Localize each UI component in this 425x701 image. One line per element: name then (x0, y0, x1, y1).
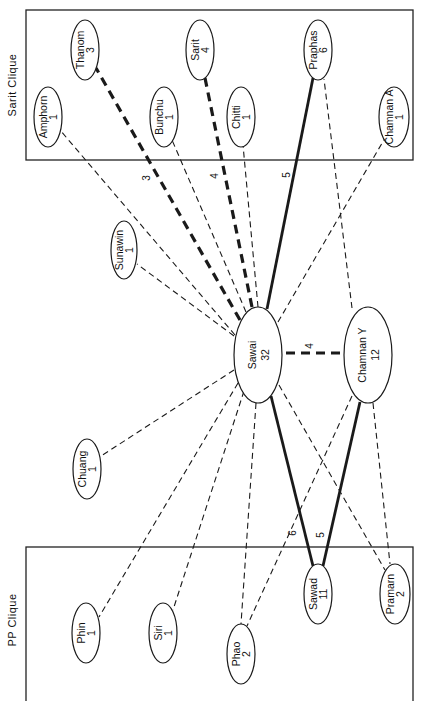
node-chamnan_a: Chamnan A1 (379, 87, 409, 147)
node-value: 2 (394, 591, 406, 597)
node-value: 1 (240, 114, 252, 120)
node-ellipse (234, 307, 282, 403)
node-name: Chamnan Y (356, 327, 368, 382)
clique-label-sarit: Sarit Clique (6, 54, 18, 117)
node-value: 2 (240, 651, 252, 657)
edges (60, 68, 390, 626)
edge-weight-label: 4 (304, 343, 315, 349)
node-sunawin: Sunawin1 (111, 221, 137, 279)
node-value: 1 (85, 630, 97, 636)
edge-sawai-pramarn (279, 385, 385, 570)
node-value: 1 (162, 630, 174, 636)
edge-sawai-sunawin (137, 264, 234, 336)
node-chuang: Chuang1 (73, 439, 101, 499)
node-value: 11 (317, 588, 329, 599)
edge-sawai-chuang (101, 370, 234, 456)
node-value: 1 (163, 114, 175, 120)
edge-sawai-phao (241, 403, 256, 624)
network-diagram: Sarit CliquePP Clique 345645 Amphorn1Tha… (0, 0, 425, 701)
node-sawai: Sawai32 (234, 307, 282, 403)
node-value: 32 (259, 349, 271, 361)
node-sarit: Sarit4 (186, 20, 214, 80)
node-siri: Siri1 (149, 603, 177, 663)
node-amphorn: Amphorn1 (34, 87, 62, 147)
edge-chamnan_y-praphas (324, 79, 352, 308)
edge-chamnan_y-sawad (323, 402, 360, 566)
node-value: 1 (86, 466, 98, 472)
node-value: 1 (123, 247, 135, 253)
node-value: 4 (199, 47, 211, 53)
node-chamnan_y: Chamnan Y12 (344, 307, 392, 403)
edge-sawai-chamnan_a (278, 138, 385, 322)
node-value: 12 (369, 349, 381, 361)
node-value: 6 (317, 47, 329, 53)
node-praphas: Praphas6 (304, 20, 332, 80)
edge-sawai-phin (99, 383, 238, 617)
node-pramarn: Pramarn2 (380, 564, 410, 624)
edge-weight-label: 5 (281, 172, 292, 178)
node-ellipse (344, 307, 392, 403)
node-value: 1 (47, 114, 59, 120)
node-bunchu: Bunchu1 (150, 87, 178, 147)
edge-weight-label: 3 (141, 175, 152, 181)
node-value: 3 (84, 47, 96, 53)
edge-weight-label: 6 (287, 530, 298, 536)
node-phin: Phin1 (72, 603, 100, 663)
edge-sawai-siri (173, 391, 244, 610)
node-chitti: Chitti1 (227, 87, 255, 147)
node-phao: Phao2 (227, 624, 255, 684)
nodes: Amphorn1Thanom3Bunchu1Sarit4Chitti1Praph… (34, 20, 410, 684)
node-sawad: Sawad11 (304, 564, 332, 624)
edge-sawai-chitti (243, 145, 258, 307)
edge-sawai-sawad (271, 396, 313, 566)
edge-weight-label: 4 (209, 173, 220, 179)
node-name: Sawai (246, 341, 258, 370)
edge-weight-label: 5 (315, 532, 326, 538)
node-value: 1 (393, 114, 405, 120)
clique-label-pp: PP Clique (6, 593, 18, 646)
edge-chamnan_y-pramarn (373, 403, 390, 564)
node-thanom: Thanom3 (71, 20, 99, 80)
